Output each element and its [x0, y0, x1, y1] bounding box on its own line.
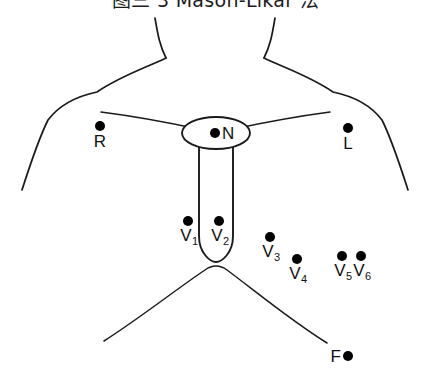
electrode-v4-dot — [292, 254, 302, 264]
electrode-v2-label: V2 — [207, 227, 233, 244]
right-clavicle — [101, 112, 198, 129]
neck-left-outline — [155, 18, 166, 58]
electrode-n-label: N — [222, 125, 234, 142]
electrode-v1-dot — [183, 216, 193, 226]
left-shoulder-outline — [264, 58, 408, 190]
figure-root: 图三 3 Mason-Likar 法 RNLV1V2V3V4V5V6F — [0, 0, 431, 380]
electrode-r-label: R — [90, 133, 110, 150]
electrode-v5-dot — [337, 251, 347, 261]
electrode-v3-label: V3 — [258, 243, 284, 260]
electrode-v2-dot — [214, 216, 224, 226]
torso-anatomy-illustration — [0, 0, 431, 380]
electrode-v6-label: V6 — [349, 262, 375, 279]
electrode-r-dot — [95, 121, 105, 131]
electrode-v4-label: V4 — [285, 265, 311, 282]
electrode-f-label: F — [331, 348, 341, 365]
neck-right-outline — [264, 18, 275, 58]
electrode-v3-dot — [265, 232, 275, 242]
electrode-l-dot — [343, 123, 353, 133]
electrode-n-dot — [210, 128, 220, 138]
electrode-l-label: L — [338, 135, 358, 152]
electrode-v1-label: V1 — [176, 227, 202, 244]
right-shoulder-outline — [22, 58, 166, 190]
electrode-f-dot — [343, 351, 353, 361]
electrode-v6-dot — [356, 251, 366, 261]
